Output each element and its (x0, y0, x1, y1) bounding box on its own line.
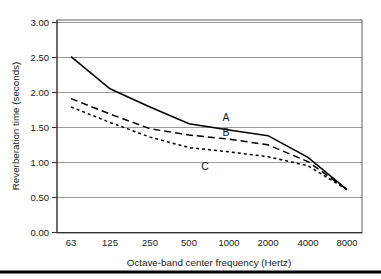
series-label-b: B (222, 126, 229, 138)
x-tick-label: 1000 (218, 237, 239, 248)
x-tick-label: 500 (181, 237, 197, 248)
y-axis-title: Reverberation time (seconds) (10, 62, 21, 191)
chart-svg: 3.00 2.50 2.00 1.50 1.00 0.50 0.00 63 12… (0, 0, 381, 279)
x-tick-label: 2000 (257, 237, 278, 248)
x-axis-title: Octave-band center frequency (Hertz) (127, 257, 291, 268)
x-tick-label: 63 (66, 237, 77, 248)
reverberation-time-chart-figure: 3.00 2.50 2.00 1.50 1.00 0.50 0.00 63 12… (0, 0, 381, 279)
x-tick-label: 4000 (297, 237, 318, 248)
y-tick-labels: 3.00 2.50 2.00 1.50 1.00 0.50 0.00 (31, 17, 50, 238)
y-tick-label: 2.50 (31, 52, 50, 63)
x-tick-label: 8000 (336, 237, 357, 248)
x-tick-label: 125 (102, 237, 118, 248)
y-tick-label: 0.00 (31, 227, 50, 238)
series-label-c: C (201, 160, 209, 172)
y-tick-label: 1.00 (31, 157, 50, 168)
y-tick-label: 0.50 (31, 192, 50, 203)
y-tick-label: 1.50 (31, 122, 50, 133)
y-tick-label: 2.00 (31, 87, 50, 98)
x-tick-label: 250 (142, 237, 158, 248)
y-tick-label: 3.00 (31, 17, 50, 28)
y-tick-marks (52, 23, 57, 233)
x-tick-labels: 63 125 250 500 1000 2000 4000 8000 (66, 237, 358, 248)
series-label-a: A (222, 111, 229, 123)
